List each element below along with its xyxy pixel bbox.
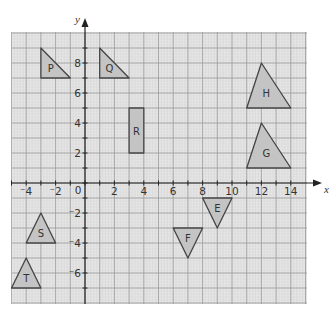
shape-label: G (262, 148, 270, 159)
y-axis-arrow-icon (82, 18, 89, 27)
y-axis-label: y (74, 13, 80, 25)
y-tick-label: ⁻6 (69, 267, 82, 279)
shape-label: H (263, 88, 271, 99)
shape-r: R (129, 108, 144, 153)
coordinate-plane: xy⁻4⁻2246810121408642⁻2⁻4⁻6PQRHGEFST (0, 0, 331, 313)
shape-label: E (214, 203, 220, 214)
coordinate-grid-figure: xy⁻4⁻2246810121408642⁻2⁻4⁻6PQRHGEFST (0, 0, 331, 313)
x-tick-label: 10 (225, 185, 238, 197)
y-tick-label: 6 (74, 87, 81, 99)
shape-label: Q (106, 63, 114, 74)
shape-label: R (133, 126, 140, 137)
y-tick-label: 8 (74, 57, 81, 69)
y-tick-label: 2 (74, 147, 81, 159)
y-tick-label: 4 (74, 117, 81, 129)
x-axis-arrow-icon (313, 180, 322, 187)
shape-label: S (38, 228, 44, 239)
x-tick-label: 4 (140, 185, 147, 197)
x-tick-label: 12 (255, 185, 268, 197)
y-tick-label: ⁻4 (69, 237, 82, 249)
x-tick-label: 2 (111, 185, 118, 197)
x-tick-label: ⁻2 (49, 185, 61, 197)
x-axis-label: x (323, 183, 329, 195)
x-tick-label: 14 (284, 185, 298, 197)
shape-label: F (185, 233, 191, 244)
x-tick-label: ⁻4 (20, 185, 33, 197)
shape-label: P (48, 63, 54, 74)
x-tick-label: 6 (170, 185, 177, 197)
y-tick-label: ⁻2 (69, 207, 81, 219)
origin-label: 0 (75, 184, 82, 196)
x-tick-label: 8 (199, 185, 206, 197)
shape-label: T (22, 273, 30, 284)
